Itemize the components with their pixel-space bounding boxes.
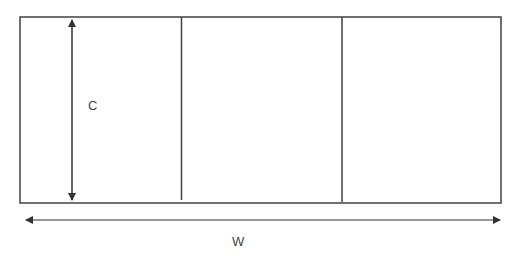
width-label: W — [232, 234, 244, 249]
diagram-canvas — [0, 0, 514, 257]
height-label: C — [88, 98, 97, 113]
